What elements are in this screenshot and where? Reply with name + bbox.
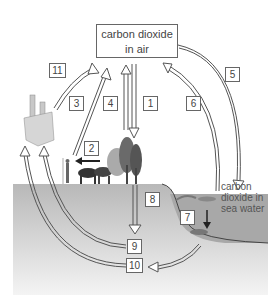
trees-icon (107, 137, 142, 184)
carbon-cycle-diagram: carbon dioxide in air carbon dioxide in … (0, 0, 274, 295)
label-11: 11 (49, 63, 66, 78)
label-10: 10 (126, 258, 143, 273)
sea-label-line-1: carbon (221, 181, 264, 192)
title-line-2: in air (97, 42, 177, 57)
cattle-icon (78, 167, 112, 184)
label-6: 6 (186, 96, 201, 111)
label-4: 4 (103, 96, 118, 111)
factory-icon (24, 95, 54, 146)
label-9: 9 (127, 239, 142, 254)
person-icon (63, 158, 70, 184)
label-7: 7 (180, 210, 195, 225)
sea-label: carbon dioxide in sea water (221, 181, 264, 214)
label-8: 8 (145, 192, 160, 207)
title-line-1: carbon dioxide (97, 27, 177, 42)
sea-label-line-3: sea water (221, 203, 264, 214)
arrowhead-11 (88, 63, 99, 74)
label-3: 3 (69, 96, 84, 111)
carbon-dioxide-in-air-box: carbon dioxide in air (96, 24, 178, 58)
label-5: 5 (225, 67, 240, 82)
label-1: 1 (143, 96, 158, 111)
sea-label-line-2: dioxide in (221, 192, 264, 203)
label-2: 2 (84, 141, 99, 156)
